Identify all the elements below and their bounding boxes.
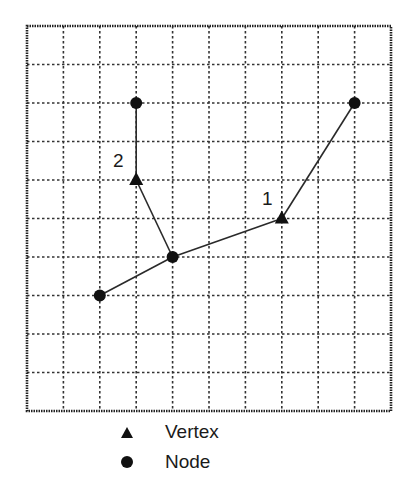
circle-icon [118, 453, 136, 471]
points [94, 97, 361, 302]
legend-label-node: Node [165, 451, 210, 473]
vertex-label-2: 2 [113, 150, 124, 172]
grid [27, 26, 391, 411]
legend-label-vertex: Vertex [165, 421, 219, 443]
node-circle-icon [167, 251, 179, 263]
diagram-canvas [0, 0, 415, 420]
legend-item-vertex: Vertex [118, 421, 219, 443]
edges [100, 103, 355, 296]
vertex-triangle-icon [129, 172, 143, 185]
triangle-icon [118, 423, 136, 441]
vertex-triangle-icon [275, 211, 289, 224]
node-circle-icon [349, 97, 361, 109]
edge-line [173, 219, 282, 258]
legend-item-node: Node [118, 451, 210, 473]
node-circle-icon [130, 97, 142, 109]
vertex-label-1: 1 [262, 188, 273, 210]
node-circle-icon [94, 290, 106, 302]
